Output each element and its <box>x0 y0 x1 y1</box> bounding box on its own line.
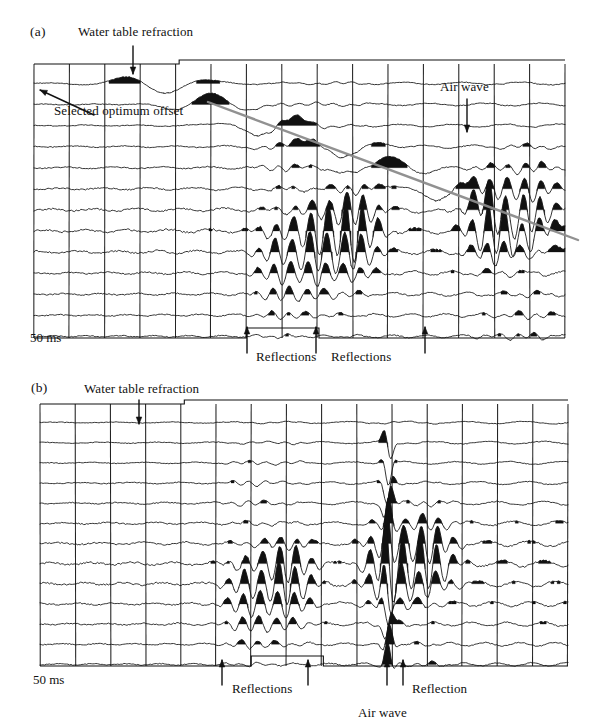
label-water-table-refraction-b: Water table refraction <box>84 381 199 397</box>
seismic-figure: (a) 50 ms (b) 50 ms Water table refracti… <box>0 0 598 724</box>
panel-b-scalebar: 50 ms <box>33 672 64 688</box>
label-selected-optimum-offset: Selected optimum offset <box>54 103 183 119</box>
label-reflections-b: Reflections <box>232 681 292 697</box>
label-reflection-b: Reflection <box>412 681 467 697</box>
label-air-wave-a: Air wave <box>440 79 489 95</box>
label-reflections-a-left: Reflections <box>256 349 316 365</box>
label-air-wave-b: Air wave <box>358 705 407 721</box>
label-water-table-refraction-a: Water table refraction <box>78 24 193 40</box>
label-reflections-a-right: Reflections <box>331 349 391 365</box>
